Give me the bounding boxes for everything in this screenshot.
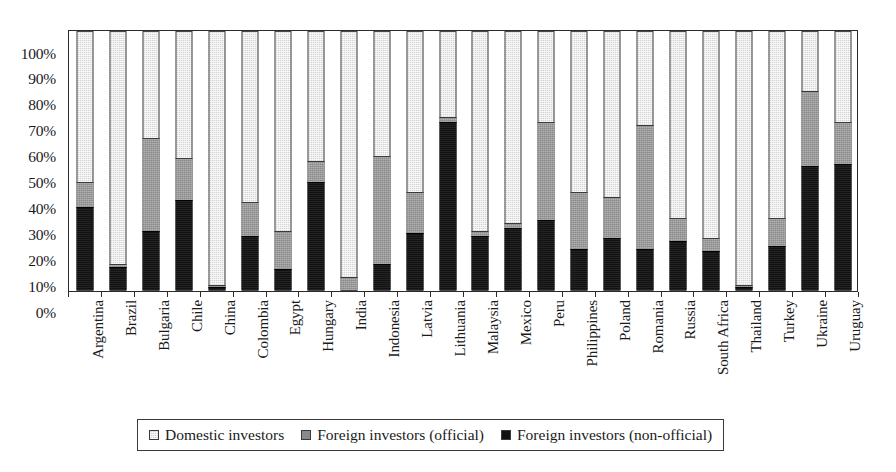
x-axis-tick-mark bbox=[792, 292, 793, 297]
x-axis-tick-mark bbox=[364, 292, 365, 297]
stacked-bar bbox=[538, 31, 555, 291]
bar-segment-foreign-nonofficial bbox=[242, 236, 259, 290]
x-axis-tick-mark bbox=[134, 292, 135, 297]
x-axis-tick-label: Brazil bbox=[123, 300, 140, 336]
stacked-bar bbox=[143, 31, 160, 291]
x-axis-tick-mark bbox=[463, 292, 464, 297]
stacked-bar bbox=[604, 31, 621, 291]
bar-slot bbox=[727, 31, 760, 291]
x-axis-tick-mark bbox=[858, 292, 859, 297]
stacked-bar bbox=[406, 31, 423, 291]
x-axis-tick-label: Colombia bbox=[255, 300, 272, 358]
bar-segment-foreign-nonofficial bbox=[274, 269, 291, 290]
x-axis-tick-label: Thailand bbox=[748, 300, 765, 353]
bar-segment-foreign-nonofficial bbox=[669, 241, 686, 290]
x-axis-tick-mark bbox=[200, 292, 201, 297]
stacked-bar bbox=[110, 31, 127, 291]
legend-item-label: Foreign investors (non-official) bbox=[517, 426, 712, 444]
x-axis-tick-label: Chile bbox=[189, 300, 206, 332]
x-axis-tick-label: Ukraine bbox=[814, 300, 831, 348]
stacked-bar bbox=[340, 31, 357, 291]
x-axis-tick-label: Latvia bbox=[419, 300, 436, 338]
bar-segment-foreign-nonofficial bbox=[209, 287, 226, 290]
x-axis-tick-mark bbox=[233, 292, 234, 297]
legend-item-label: Foreign investors (official) bbox=[317, 426, 484, 444]
x-axis-tick-mark bbox=[397, 292, 398, 297]
bar-slot bbox=[826, 31, 859, 291]
stacked-bar bbox=[274, 31, 291, 291]
stacked-bar bbox=[768, 31, 785, 291]
x-axis-tick-label: Russia bbox=[682, 300, 699, 339]
bar-segment-foreign-nonofficial bbox=[604, 238, 621, 290]
bar-segment-foreign-official bbox=[340, 277, 357, 290]
stacked-bar bbox=[373, 31, 390, 291]
bar-slot bbox=[431, 31, 464, 291]
bar-segment-foreign-nonofficial bbox=[571, 249, 588, 290]
bar-slot bbox=[365, 31, 398, 291]
bar-slot bbox=[398, 31, 431, 291]
y-axis-tick-label: 60% bbox=[28, 148, 56, 166]
y-axis: 0%10%20%30%40%50%60%70%80%90%100% bbox=[0, 22, 66, 300]
bar-slot bbox=[201, 31, 234, 291]
y-axis-tick-label: 80% bbox=[28, 96, 56, 114]
stacked-bar bbox=[571, 31, 588, 291]
light-gray-swatch-icon bbox=[149, 430, 159, 440]
bar-slot bbox=[299, 31, 332, 291]
x-axis-tick-label: China bbox=[222, 300, 239, 335]
stacked-bar bbox=[242, 31, 259, 291]
x-axis-tick-label: Mexico bbox=[518, 300, 535, 345]
bar-slot bbox=[332, 31, 365, 291]
x-axis-tick-mark bbox=[430, 292, 431, 297]
bar-segment-foreign-nonofficial bbox=[307, 182, 324, 290]
chart-figure: 0%10%20%30%40%50%60%70%80%90%100% Argent… bbox=[0, 0, 896, 472]
legend-item: Foreign investors (non-official) bbox=[501, 426, 712, 444]
x-axis-tick-label: Indonesia bbox=[386, 300, 403, 357]
y-axis-tick-label: 30% bbox=[28, 226, 56, 244]
bar-slot bbox=[793, 31, 826, 291]
x-axis-tick-mark bbox=[298, 292, 299, 297]
bar-segment-foreign-nonofficial bbox=[768, 246, 785, 290]
bar-segment-foreign-nonofficial bbox=[176, 200, 193, 290]
x-axis-tick-mark bbox=[595, 292, 596, 297]
bar-segment-foreign-nonofficial bbox=[702, 251, 719, 290]
x-axis-tick-mark bbox=[562, 292, 563, 297]
y-axis-tick-label: 10% bbox=[28, 278, 56, 296]
bar-slot bbox=[102, 31, 135, 291]
chart-legend: Domestic investorsForeign investors (off… bbox=[137, 419, 724, 451]
y-axis-tick-label: 100% bbox=[21, 45, 56, 63]
x-axis-tick-mark bbox=[68, 292, 69, 297]
bar-slot bbox=[563, 31, 596, 291]
stacked-bar bbox=[176, 31, 193, 291]
bar-slot bbox=[662, 31, 695, 291]
bar-segment-foreign-nonofficial bbox=[538, 220, 555, 290]
stacked-bar bbox=[669, 31, 686, 291]
x-axis-tick-label: Uruguay bbox=[847, 300, 864, 352]
bar-slot bbox=[267, 31, 300, 291]
x-axis-tick-mark bbox=[266, 292, 267, 297]
x-axis-tick-label: Egypt bbox=[287, 300, 304, 335]
bar-segment-foreign-nonofficial bbox=[735, 287, 752, 290]
x-axis-tick-mark bbox=[661, 292, 662, 297]
bar-slot bbox=[135, 31, 168, 291]
y-axis-tick-label: 50% bbox=[28, 174, 56, 192]
bar-segment-foreign-nonofficial bbox=[143, 231, 160, 290]
stacked-bar bbox=[505, 31, 522, 291]
x-axis-tick-label: Malaysia bbox=[485, 300, 502, 354]
y-axis-tick-label: 40% bbox=[28, 200, 56, 218]
x-axis-tick-mark bbox=[496, 292, 497, 297]
bar-slot bbox=[168, 31, 201, 291]
plot-area bbox=[68, 30, 858, 292]
x-axis-tick-mark bbox=[167, 292, 168, 297]
x-axis-tick-mark bbox=[693, 292, 694, 297]
x-axis-tick-mark bbox=[101, 292, 102, 297]
y-axis-tick-label: 20% bbox=[28, 252, 56, 270]
bar-segment-foreign-nonofficial bbox=[801, 166, 818, 290]
stacked-bar bbox=[77, 31, 94, 291]
x-axis-tick-mark bbox=[331, 292, 332, 297]
stacked-bar bbox=[702, 31, 719, 291]
stacked-bar bbox=[472, 31, 489, 291]
bar-segment-foreign-nonofficial bbox=[439, 122, 456, 290]
bar-segment-foreign-nonofficial bbox=[373, 264, 390, 290]
legend-item-label: Domestic investors bbox=[165, 426, 284, 444]
bar-segment-foreign-nonofficial bbox=[505, 228, 522, 290]
